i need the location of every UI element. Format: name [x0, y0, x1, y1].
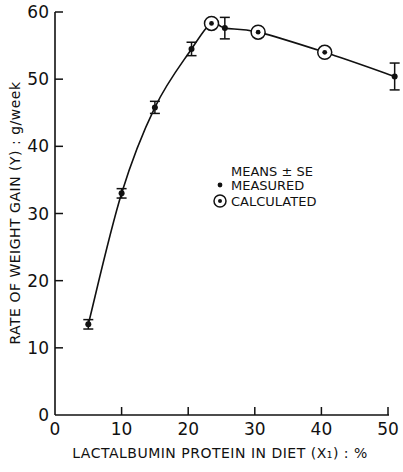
measured-point — [189, 46, 195, 52]
y-tick-label: 20 — [27, 271, 49, 291]
calculated-dot-icon — [218, 199, 222, 203]
y-tick-label: 60 — [27, 2, 49, 22]
x-axis-label: LACTALBUMIN PROTEIN IN DIET (X₁) : % — [72, 445, 368, 461]
x-tick-label: 10 — [111, 419, 133, 439]
x-tick-label: 40 — [311, 419, 333, 439]
y-tick-label: 0 — [38, 405, 49, 425]
measured-point — [222, 25, 228, 31]
legend: MEANS ± SE MEASURED CALCULATED — [214, 164, 316, 209]
measured-point — [85, 321, 91, 327]
axes — [55, 12, 389, 415]
x-ticks: 01020304050 — [50, 407, 399, 439]
y-tick-label: 50 — [27, 69, 49, 89]
legend-calculated: CALCULATED — [231, 194, 316, 209]
measured-point — [119, 190, 125, 196]
measured-point — [152, 104, 158, 110]
legend-measured: MEASURED — [231, 178, 304, 193]
measured-dot-icon — [218, 183, 223, 188]
x-tick-label: 0 — [50, 419, 61, 439]
legend-title: MEANS ± SE — [231, 164, 313, 179]
x-tick-label: 50 — [377, 419, 399, 439]
x-tick-label: 30 — [244, 419, 266, 439]
measured-point — [392, 73, 398, 79]
y-axis-label: RATE OF WEIGHT GAIN (Y) : g/week — [7, 81, 23, 345]
x-tick-label: 20 — [177, 419, 199, 439]
y-tick-label: 30 — [27, 204, 49, 224]
y-ticks: 0102030405060 — [27, 2, 63, 425]
y-tick-label: 10 — [27, 338, 49, 358]
y-tick-label: 40 — [27, 136, 49, 156]
weight-gain-chart: 0102030405060 01020304050 RATE OF WEIGHT… — [0, 0, 403, 472]
